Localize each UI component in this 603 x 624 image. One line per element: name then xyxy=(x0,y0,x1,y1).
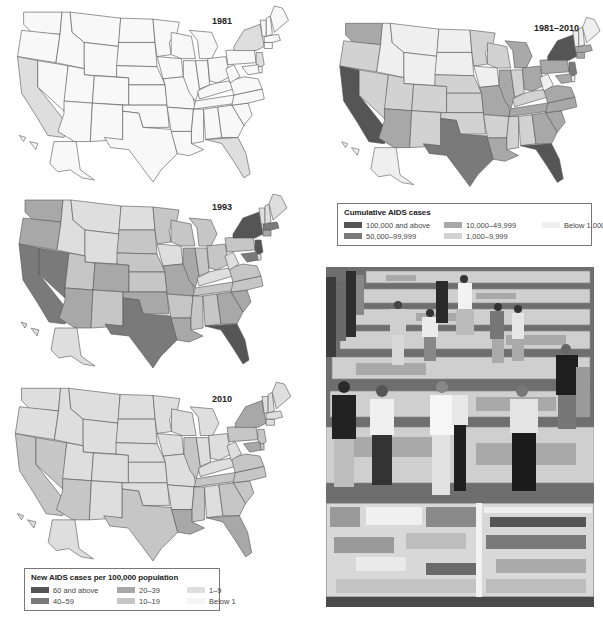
new-cases-legend: New AIDS cases per 100,000 population 60… xyxy=(24,568,220,611)
map-title: 1993 xyxy=(212,202,232,212)
state-nd xyxy=(437,29,472,52)
legend-label: 10,000–49,999 xyxy=(466,221,516,230)
legend-item: 10,000–49,999 xyxy=(444,220,534,230)
state-wy xyxy=(404,52,437,85)
legend-item: Below 1,000 xyxy=(542,220,603,230)
state-md xyxy=(242,65,260,75)
state-wi xyxy=(487,43,510,68)
legend-label: Below 1,000 xyxy=(564,221,603,230)
state-co xyxy=(93,263,129,292)
state-fl xyxy=(206,137,250,177)
state-sd xyxy=(117,230,157,254)
state-hi2 xyxy=(28,520,36,528)
state-sd xyxy=(117,42,157,66)
state-md xyxy=(241,252,259,262)
map-2010: 2010 xyxy=(6,378,296,563)
state-ct xyxy=(264,42,272,48)
legend-swatch xyxy=(117,587,135,593)
legend-title: New AIDS cases per 100,000 population xyxy=(31,573,213,582)
state-hi1 xyxy=(21,322,27,328)
legend-label: 10–19 xyxy=(139,597,160,606)
quilt-photo xyxy=(326,267,594,607)
map-title: 1981–2010 xyxy=(534,23,579,33)
state-ny xyxy=(233,212,263,238)
state-nd xyxy=(118,394,155,419)
state-ar xyxy=(484,115,509,138)
state-hi1 xyxy=(17,514,23,520)
legend-item: 1–9 xyxy=(187,585,236,595)
state-hi2 xyxy=(30,142,38,150)
legend-item: 100,000 and above xyxy=(344,220,436,230)
state-ct xyxy=(263,230,271,236)
cumulative-legend: Cumulative AIDS cases 100,000 and above … xyxy=(337,203,592,246)
state-me xyxy=(270,6,288,32)
state-ms xyxy=(191,296,203,330)
legend-label: 50,000–99,999 xyxy=(366,232,416,241)
legend-swatch xyxy=(31,587,49,593)
state-ak xyxy=(48,520,93,559)
state-wy xyxy=(85,230,119,264)
state-me xyxy=(269,194,287,220)
state-ar xyxy=(167,485,194,510)
map-title: 1981 xyxy=(212,16,232,26)
state-co xyxy=(91,453,128,483)
state-ar xyxy=(167,294,193,318)
state-sd xyxy=(116,419,157,444)
legend-swatch xyxy=(444,233,462,239)
legend-label: 20–39 xyxy=(139,586,160,595)
state-ny xyxy=(548,35,577,60)
state-me xyxy=(583,17,600,42)
state-ar xyxy=(167,107,193,131)
state-hi1 xyxy=(20,135,26,141)
state-wi xyxy=(171,220,195,246)
state-wi xyxy=(171,32,195,58)
state-pa xyxy=(225,236,255,252)
state-ks xyxy=(128,462,167,483)
legend-swatch xyxy=(542,222,560,228)
state-nm xyxy=(91,290,123,328)
state-wy xyxy=(84,42,118,76)
state-ms xyxy=(192,487,204,522)
state-ks xyxy=(129,85,167,105)
state-ak xyxy=(50,142,94,180)
us-map xyxy=(6,2,296,184)
state-nd xyxy=(119,206,155,230)
state-hi2 xyxy=(351,148,359,156)
quilt-scene-image xyxy=(326,267,594,607)
state-fl xyxy=(520,144,563,183)
map-1993: 1993 xyxy=(6,190,296,370)
state-wi xyxy=(172,409,197,436)
state-wy xyxy=(83,419,118,454)
state-de xyxy=(258,67,262,73)
state-ms xyxy=(191,109,203,143)
legend-swatch xyxy=(187,587,205,593)
legend-label: 1,000–9,999 xyxy=(466,232,508,241)
state-ct xyxy=(577,52,585,58)
legend-item: 10–19 xyxy=(117,596,179,606)
legend-item: 1,000–9,999 xyxy=(444,231,534,241)
state-sd xyxy=(435,52,474,75)
legend-item: 60 and above xyxy=(31,585,109,595)
us-map xyxy=(6,378,296,563)
state-ak xyxy=(51,328,95,366)
state-pa xyxy=(227,425,258,441)
state-hi1 xyxy=(342,142,348,148)
state-ms xyxy=(507,117,519,150)
legend-swatch xyxy=(31,598,49,604)
legend-label: 40–59 xyxy=(53,597,74,606)
state-ny xyxy=(234,24,264,50)
state-ks xyxy=(447,93,484,112)
us-map xyxy=(6,190,296,370)
state-ak xyxy=(371,148,414,185)
legend-swatch xyxy=(344,233,362,239)
state-hi2 xyxy=(31,328,39,336)
state-ks xyxy=(129,272,167,292)
state-nm xyxy=(89,481,122,520)
state-ny xyxy=(235,401,266,428)
state-de xyxy=(257,254,261,260)
state-de xyxy=(571,76,575,82)
state-co xyxy=(92,76,128,105)
legend-item: Below 1 xyxy=(187,596,236,606)
state-fl xyxy=(205,324,249,364)
legend-label: 100,000 and above xyxy=(366,221,430,230)
